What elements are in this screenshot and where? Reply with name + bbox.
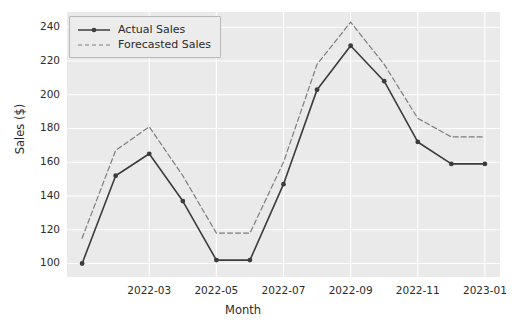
y-tick-label: 120 (20, 223, 60, 235)
legend-item-actual-sales: Actual Sales (77, 22, 211, 37)
y-tick-label: 160 (20, 155, 60, 167)
legend-label-actual-sales: Actual Sales (118, 23, 185, 36)
legend-item-forecasted-sales: Forecasted Sales (77, 37, 211, 52)
y-tick-label: 200 (20, 88, 60, 100)
y-tick-label: 240 (20, 20, 60, 32)
chart-legend: Actual Sales Forecasted Sales (69, 16, 221, 58)
legend-swatch-dashed-line (77, 39, 111, 51)
legend-swatch-solid-line (77, 24, 111, 36)
x-axis-label: Month (203, 303, 283, 317)
sales-forecast-chart: Sales ($) Month 100120140160180200220240… (0, 0, 520, 326)
y-tick-label: 180 (20, 121, 60, 133)
x-tick-label: 2023-01 (445, 284, 520, 296)
y-tick-label: 220 (20, 54, 60, 66)
legend-label-forecasted-sales: Forecasted Sales (118, 38, 211, 51)
y-tick-label: 100 (20, 256, 60, 268)
y-tick-label: 140 (20, 189, 60, 201)
